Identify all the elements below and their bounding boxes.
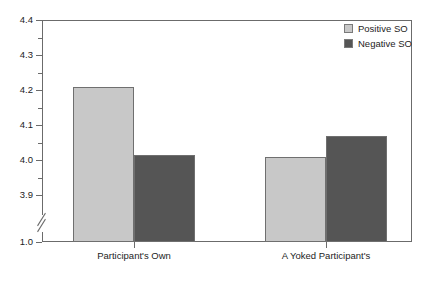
y-axis-tick-label: 3.9 — [0, 190, 33, 200]
y-axis-minor-tick — [38, 38, 42, 39]
bar[interactable] — [73, 87, 134, 243]
bar[interactable] — [326, 136, 387, 243]
x-axis-tick — [134, 242, 135, 248]
axis-break-icon — [33, 213, 51, 233]
bar-chart: 4.44.34.24.14.03.91.0 Participant's OwnA… — [0, 0, 430, 281]
legend: Positive SO Negative SO — [344, 23, 412, 49]
x-axis-tick — [326, 242, 327, 248]
y-axis-tick-label: 1.0 — [0, 237, 33, 247]
y-axis-tick-label: 4.1 — [0, 120, 33, 130]
y-axis-tick-label: 4.3 — [0, 50, 33, 60]
y-axis-tick — [36, 125, 42, 126]
legend-label-positive-so: Positive SO — [358, 24, 408, 34]
y-axis-minor-tick — [38, 178, 42, 179]
y-axis-minor-tick — [38, 73, 42, 74]
y-axis-tick — [36, 160, 42, 161]
y-axis-minor-tick — [38, 143, 42, 144]
legend-swatch-negative-so — [344, 39, 353, 48]
legend-item-positive-so[interactable]: Positive SO — [344, 23, 412, 34]
y-axis-tick — [36, 55, 42, 56]
x-axis-category-label: A Yoked Participant's — [282, 251, 370, 261]
legend-label-negative-so: Negative SO — [358, 39, 412, 49]
y-axis-tick — [36, 242, 42, 243]
y-axis-tick-label: 4.2 — [0, 85, 33, 95]
y-axis-tick-label: 4.0 — [0, 155, 33, 165]
y-axis-tick-label: 4.4 — [0, 15, 33, 25]
legend-item-negative-so[interactable]: Negative SO — [344, 38, 412, 49]
bar[interactable] — [265, 157, 326, 243]
y-axis-minor-tick — [38, 108, 42, 109]
legend-swatch-positive-so — [344, 24, 353, 33]
y-axis-tick — [36, 195, 42, 196]
y-axis-tick — [36, 90, 42, 91]
x-axis-category-label: Participant's Own — [97, 251, 171, 261]
bar[interactable] — [134, 155, 195, 242]
y-axis-tick — [36, 20, 42, 21]
